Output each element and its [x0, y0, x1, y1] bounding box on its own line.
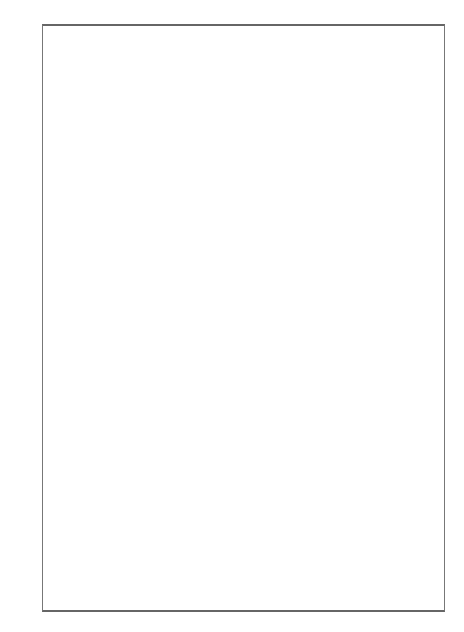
diagram-canvas: [0, 0, 464, 632]
